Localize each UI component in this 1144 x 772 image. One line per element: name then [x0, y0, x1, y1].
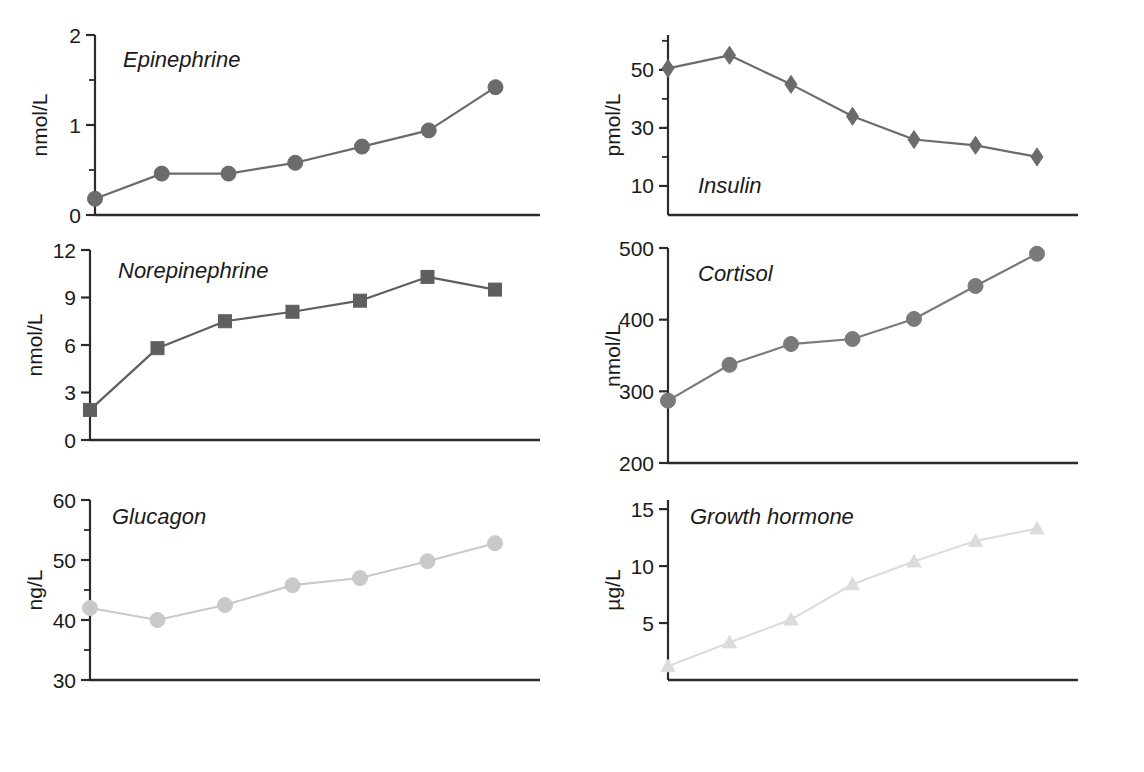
- data-point-marker: [353, 571, 368, 586]
- chart-panel-insulin: 103050pmol/LInsulin: [598, 17, 1112, 237]
- data-point-marker: [84, 403, 97, 416]
- data-point-marker: [150, 613, 165, 628]
- y-axis-tick-label: 5: [642, 612, 654, 635]
- data-point-marker: [354, 294, 367, 307]
- panel-title-epinephrine: Epinephrine: [123, 47, 240, 72]
- y-axis-tick-label: 60: [53, 489, 76, 512]
- data-point-marker: [488, 536, 503, 551]
- data-point-marker: [845, 332, 860, 347]
- data-point-marker: [218, 598, 233, 613]
- data-point-marker: [83, 601, 98, 616]
- y-axis-tick-label: 30: [631, 116, 654, 139]
- data-point-marker: [1030, 246, 1045, 261]
- y-axis-title: nmol/L: [601, 324, 624, 387]
- chart-panel-growth-hormone: 51015µg/LGrowth hormone: [598, 482, 1112, 702]
- y-axis-tick-label: 9: [64, 286, 76, 309]
- y-axis-tick-label: 12: [53, 239, 76, 262]
- y-axis-tick-label: 10: [631, 174, 654, 197]
- hormone-response-figure: 012nmol/LEpinephrine103050pmol/LInsulin0…: [0, 0, 1144, 772]
- y-axis-tick-label: 40: [53, 609, 76, 632]
- y-axis-title: nmol/L: [28, 93, 51, 156]
- data-point-marker: [420, 554, 435, 569]
- data-point-marker: [219, 315, 232, 328]
- data-point-marker: [722, 357, 737, 372]
- y-axis-tick-label: 200: [619, 452, 654, 475]
- data-point-marker: [421, 270, 434, 283]
- data-point-marker: [154, 166, 169, 181]
- data-point-marker: [784, 337, 799, 352]
- data-point-marker: [88, 191, 103, 206]
- chart-panel-norepinephrine: 036912nmol/LNorepinephrine: [20, 232, 574, 462]
- y-axis-tick-label: 10: [631, 555, 654, 578]
- y-axis-title: µg/L: [601, 569, 624, 610]
- panel-title-cortisol: Cortisol: [698, 261, 774, 286]
- data-point-marker: [355, 139, 370, 154]
- y-axis-title: nmol/L: [23, 313, 46, 376]
- y-axis-tick-label: 30: [53, 669, 76, 692]
- data-point-marker: [847, 107, 859, 125]
- y-axis-tick-label: 500: [619, 237, 654, 260]
- data-point-marker: [421, 123, 436, 138]
- chart-panel-cortisol: 200300400500nmol/LCortisol: [598, 230, 1112, 485]
- panel-title-insulin: Insulin: [698, 173, 762, 198]
- chart-panel-epinephrine: 012nmol/LEpinephrine: [25, 17, 574, 237]
- data-point-marker: [908, 131, 920, 149]
- y-axis-title: ng/L: [23, 570, 46, 611]
- data-point-marker: [662, 59, 674, 77]
- panel-title-growth-hormone: Growth hormone: [690, 504, 854, 529]
- data-point-marker: [288, 155, 303, 170]
- y-axis-tick-label: 0: [64, 429, 76, 452]
- data-point-marker: [907, 311, 922, 326]
- y-axis-tick-label: 50: [631, 58, 654, 81]
- y-axis-tick-label: 400: [619, 308, 654, 331]
- y-axis-tick-label: 3: [64, 381, 76, 404]
- panel-title-norepinephrine: Norepinephrine: [118, 258, 268, 283]
- data-point-marker: [286, 305, 299, 318]
- data-point-marker: [221, 166, 236, 181]
- data-point-marker: [285, 578, 300, 593]
- y-axis-tick-label: 6: [64, 334, 76, 357]
- y-axis-tick-label: 1: [69, 114, 81, 137]
- data-point-marker: [661, 393, 676, 408]
- data-point-marker: [488, 80, 503, 95]
- series-line-insulin: [668, 55, 1037, 157]
- y-axis-title: pmol/L: [601, 93, 624, 156]
- data-point-marker: [785, 75, 797, 93]
- data-point-marker: [151, 342, 164, 355]
- data-point-marker: [784, 613, 798, 625]
- data-point-marker: [489, 283, 502, 296]
- y-axis-tick-label: 0: [69, 204, 81, 227]
- y-axis-tick-label: 2: [69, 24, 81, 47]
- series-line-epinephrine: [95, 87, 496, 199]
- data-point-marker: [724, 46, 736, 64]
- panel-title-glucagon: Glucagon: [112, 504, 206, 529]
- chart-panel-glucagon: 30405060ng/LGlucagon: [20, 482, 574, 702]
- data-point-marker: [970, 136, 982, 154]
- y-axis-tick-label: 300: [619, 380, 654, 403]
- data-point-marker: [1030, 521, 1044, 533]
- data-point-marker: [968, 278, 983, 293]
- y-axis-tick-label: 50: [53, 549, 76, 572]
- data-point-marker: [1031, 148, 1043, 166]
- y-axis-tick-label: 15: [631, 498, 654, 521]
